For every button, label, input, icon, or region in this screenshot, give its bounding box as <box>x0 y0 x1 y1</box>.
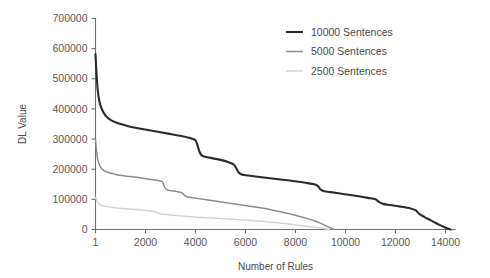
x-axis-title: Number of Rules <box>238 261 313 272</box>
x-axis-tick-label: 1 <box>93 236 99 248</box>
x-axis-tick-label: 2000 <box>134 236 158 248</box>
chart-figure: 0100000200000300000400000500000600000700… <box>0 0 490 278</box>
x-axis: 12000400060008000100001200014000 <box>93 230 461 248</box>
legend-label: 5000 Sentences <box>311 45 387 57</box>
legend-label: 2500 Sentences <box>311 65 387 77</box>
y-axis-tick-label: 200000 <box>52 163 87 175</box>
y-axis-tick-label: 100000 <box>52 193 87 205</box>
y-axis-tick-label: 400000 <box>52 103 87 115</box>
x-axis-tick-label: 6000 <box>234 236 258 248</box>
y-axis-tick-label: 600000 <box>52 42 87 54</box>
x-axis-tick-label: 4000 <box>184 236 208 248</box>
y-axis-tick-label: 500000 <box>52 72 87 84</box>
y-axis-tick-label: 0 <box>82 223 88 235</box>
legend-label: 10000 Sentences <box>311 26 393 38</box>
y-axis-tick-label: 700000 <box>52 12 87 24</box>
legend-item[interactable]: 10000 Sentences <box>286 26 393 38</box>
series-line-2500 <box>96 197 330 229</box>
plot-series-group <box>96 54 451 229</box>
x-axis-tick-label: 10000 <box>331 236 360 248</box>
legend-item[interactable]: 2500 Sentences <box>286 65 387 77</box>
y-axis: 0100000200000300000400000500000600000700… <box>52 12 95 235</box>
x-axis-tick-label: 14000 <box>431 236 460 248</box>
series-line-10000 <box>96 54 451 229</box>
legend: 10000 Sentences5000 Sentences2500 Senten… <box>286 26 393 77</box>
x-axis-tick-label: 12000 <box>381 236 410 248</box>
y-axis-title: DL Value <box>17 104 28 144</box>
dl-value-line-chart: 0100000200000300000400000500000600000700… <box>0 0 490 278</box>
series-line-5000 <box>96 140 334 230</box>
x-axis-tick-label: 8000 <box>284 236 308 248</box>
y-axis-tick-label: 300000 <box>52 133 87 145</box>
legend-item[interactable]: 5000 Sentences <box>286 45 387 57</box>
